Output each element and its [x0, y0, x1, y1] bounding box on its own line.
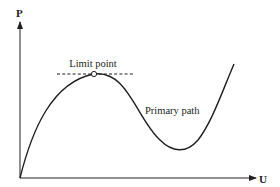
limit-point-marker: [91, 71, 96, 76]
primary-path-label: Primary path: [145, 105, 200, 116]
limit-point-label: Limit point: [69, 58, 117, 69]
y-axis-label: P: [16, 7, 23, 19]
x-axis-label: U: [259, 173, 267, 185]
primary-path-curve: [20, 64, 234, 178]
load-displacement-diagram: P U Limit point Primary path: [0, 0, 280, 187]
